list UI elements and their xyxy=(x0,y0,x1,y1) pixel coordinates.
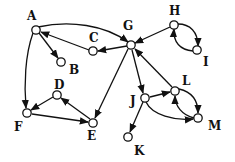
node-f xyxy=(23,109,31,117)
node-label-c: C xyxy=(89,31,99,45)
node-l xyxy=(171,87,179,95)
edge-j-to-m-arrow xyxy=(146,102,193,119)
node-label-b: B xyxy=(69,63,79,77)
edges xyxy=(25,24,198,132)
node-label-a: A xyxy=(26,9,37,23)
edge-a-to-g-arrow xyxy=(38,24,128,42)
node-label-d: D xyxy=(54,78,64,92)
node-d xyxy=(53,91,61,99)
node-g xyxy=(127,41,135,49)
node-a xyxy=(32,26,40,34)
node-label-j: J xyxy=(129,94,136,108)
edge-m-to-l-arrow xyxy=(175,96,194,118)
edge-a-to-f-arrow xyxy=(25,33,33,108)
node-label-i: I xyxy=(203,55,209,69)
edge-i-to-h-arrow xyxy=(174,29,193,51)
edge-d-to-f-arrow xyxy=(31,97,53,110)
node-m xyxy=(194,114,202,122)
edge-l-to-m-arrow xyxy=(179,89,198,113)
node-b xyxy=(57,58,65,66)
node-c xyxy=(89,47,97,55)
node-i xyxy=(193,46,201,54)
edge-j-to-l-arrow xyxy=(150,92,170,97)
edge-e-to-d-arrow xyxy=(61,98,90,119)
node-label-g: G xyxy=(123,19,133,33)
edge-g-to-c-arrow xyxy=(98,46,127,51)
node-label-e: E xyxy=(87,129,96,143)
edge-c-to-a-arrow xyxy=(41,32,89,50)
node-label-m: M xyxy=(208,119,221,133)
node-label-h: H xyxy=(169,4,180,18)
edge-g-to-e-arrow xyxy=(95,49,128,118)
node-label-k: K xyxy=(134,144,145,158)
edge-f-to-e-arrow xyxy=(32,114,88,122)
node-e xyxy=(89,119,97,127)
node-k xyxy=(124,133,132,141)
node-label-f: F xyxy=(14,120,23,134)
node-h xyxy=(170,21,178,29)
directed-graph: ABCGHIDFEJLMK xyxy=(0,0,235,162)
node-label-l: L xyxy=(182,74,191,88)
edge-h-to-i-arrow xyxy=(178,24,198,46)
node-j xyxy=(141,94,149,102)
edge-h-to-g-arrow xyxy=(135,27,170,43)
